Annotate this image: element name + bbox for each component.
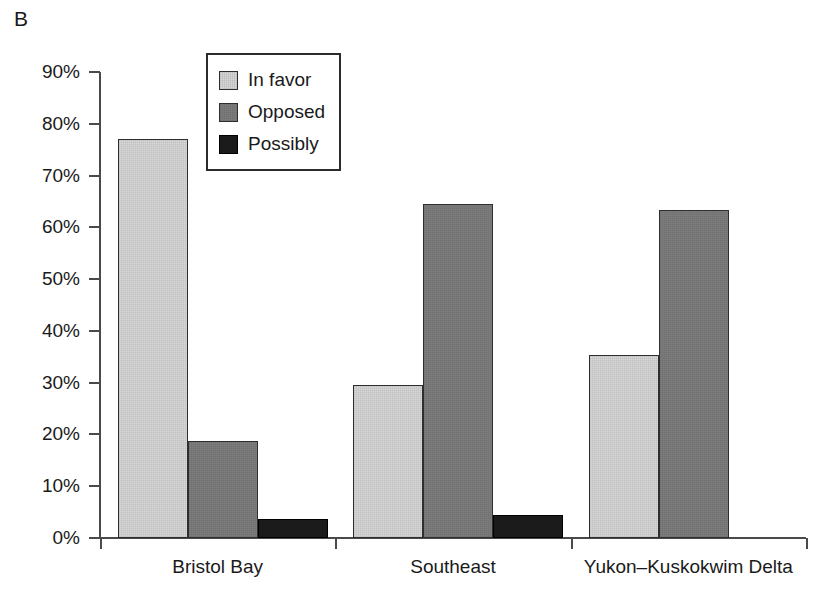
y-axis-tick-label: 70% bbox=[42, 165, 80, 187]
bar-in-favor bbox=[589, 355, 659, 538]
y-axis-tick: 10% bbox=[89, 485, 100, 487]
x-axis-tick bbox=[335, 538, 337, 549]
x-axis-group-label: Southeast bbox=[410, 556, 496, 578]
y-axis-tick: 0% bbox=[89, 537, 100, 539]
x-axis-tick bbox=[100, 538, 102, 549]
x-axis-tick bbox=[806, 538, 808, 549]
y-axis-tick: 50% bbox=[89, 278, 100, 280]
y-axis-tick-label: 0% bbox=[53, 527, 80, 549]
y-axis-tick-label: 30% bbox=[42, 372, 80, 394]
y-axis-tick: 80% bbox=[89, 123, 100, 125]
bar-in-favor bbox=[353, 385, 423, 538]
x-axis-group-label: Bristol Bay bbox=[172, 556, 263, 578]
legend-item-label: In favor bbox=[248, 69, 311, 91]
bar-possibly bbox=[258, 519, 328, 538]
y-axis-tick: 60% bbox=[89, 226, 100, 228]
x-axis-tick bbox=[571, 538, 573, 549]
legend-item-label: Possibly bbox=[248, 133, 319, 155]
y-axis-tick-label: 60% bbox=[42, 216, 80, 238]
bar-opposed bbox=[659, 210, 729, 538]
y-axis-tick: 70% bbox=[89, 175, 100, 177]
y-axis-tick: 20% bbox=[89, 433, 100, 435]
panel-label: B bbox=[14, 8, 28, 29]
bar-possibly bbox=[493, 515, 563, 538]
y-axis-tick-label: 20% bbox=[42, 423, 80, 445]
y-axis-tick-label: 10% bbox=[42, 475, 80, 497]
x-axis-group-label: Yukon–Kuskokwim Delta bbox=[584, 556, 793, 578]
bar-opposed bbox=[188, 441, 258, 538]
y-axis-tick: 30% bbox=[89, 382, 100, 384]
y-axis-tick-label: 90% bbox=[42, 61, 80, 83]
y-axis-tick: 40% bbox=[89, 330, 100, 332]
bar-opposed bbox=[423, 204, 493, 538]
chart-legend: In favorOpposedPossibly bbox=[206, 53, 341, 171]
bar-in-favor bbox=[118, 139, 188, 538]
legend-swatch-possibly bbox=[219, 135, 238, 154]
y-axis-tick-label: 50% bbox=[42, 268, 80, 290]
y-axis-tick-label: 80% bbox=[42, 113, 80, 135]
figure-panel-b: B 0%10%20%30%40%50%60%70%80%90% Bristol … bbox=[0, 0, 816, 595]
legend-swatch-in-favor bbox=[219, 71, 238, 90]
legend-swatch-opposed bbox=[219, 103, 238, 122]
legend-item: Possibly bbox=[219, 128, 325, 160]
y-axis-tick-label: 40% bbox=[42, 320, 80, 342]
legend-item: In favor bbox=[219, 64, 325, 96]
y-axis-tick: 90% bbox=[89, 71, 100, 73]
legend-item: Opposed bbox=[219, 96, 325, 128]
legend-item-label: Opposed bbox=[248, 101, 325, 123]
